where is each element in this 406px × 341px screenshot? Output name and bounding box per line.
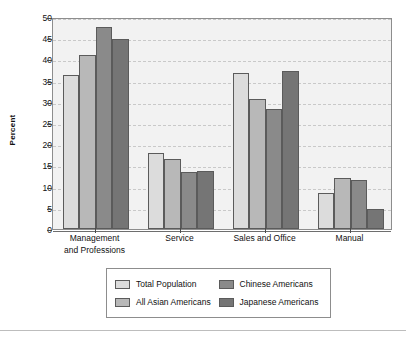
bar bbox=[79, 55, 96, 229]
y-tick-label: 15 bbox=[6, 162, 52, 171]
bar bbox=[164, 159, 181, 229]
legend-swatch-icon bbox=[219, 298, 234, 307]
bar-group bbox=[148, 19, 214, 229]
y-tick-mark bbox=[47, 230, 52, 231]
y-tick-label: 20 bbox=[6, 141, 52, 150]
x-tick-mark bbox=[350, 228, 351, 233]
legend-label: Total Population bbox=[136, 279, 197, 289]
y-tick-label: 40 bbox=[6, 56, 52, 65]
bar bbox=[112, 39, 129, 229]
legend-item-chinese-americans: Chinese Americans bbox=[219, 279, 323, 289]
y-tick-label: 50 bbox=[6, 14, 52, 23]
bar bbox=[96, 27, 113, 229]
gridline bbox=[53, 231, 391, 232]
x-axis-tick-labels: Managementand ProfessionsServiceSales an… bbox=[52, 233, 392, 273]
bar-group bbox=[63, 19, 129, 229]
bar bbox=[351, 180, 368, 229]
bar bbox=[266, 109, 283, 229]
legend-label: All Asian Americans bbox=[136, 297, 211, 307]
bar bbox=[148, 153, 165, 229]
bar-group bbox=[233, 19, 299, 229]
y-tick-label: 5 bbox=[6, 205, 52, 214]
bar bbox=[334, 178, 351, 229]
footer-divider bbox=[0, 330, 406, 331]
x-tick-mark bbox=[180, 228, 181, 233]
legend-swatch-icon bbox=[219, 280, 234, 289]
x-tick-mark bbox=[265, 228, 266, 233]
y-tick-label: 30 bbox=[6, 99, 52, 108]
chart-legend: Total Population Chinese Americans All A… bbox=[106, 268, 331, 318]
x-tick-mark bbox=[95, 228, 96, 233]
y-axis-tick-labels: 05101520253035404550 bbox=[0, 18, 52, 230]
legend-label: Chinese Americans bbox=[240, 279, 313, 289]
bars-layer bbox=[53, 19, 391, 229]
y-tick-label: 10 bbox=[6, 184, 52, 193]
legend-swatch-icon bbox=[115, 280, 130, 289]
bar bbox=[282, 71, 299, 229]
bar bbox=[318, 193, 335, 229]
bar bbox=[63, 75, 80, 229]
y-tick-label: 45 bbox=[6, 35, 52, 44]
legend-row: All Asian Americans Japanese Americans bbox=[115, 293, 322, 311]
y-tick-label: 25 bbox=[6, 120, 52, 129]
bar bbox=[181, 172, 198, 229]
legend-swatch-icon bbox=[115, 298, 130, 307]
bar bbox=[197, 171, 214, 230]
y-tick-label: 35 bbox=[6, 78, 52, 87]
plot-area bbox=[52, 18, 392, 230]
legend-label: Japanese Americans bbox=[240, 297, 319, 307]
bar-group bbox=[318, 19, 384, 229]
bar-chart-figure: Percent 05101520253035404550 Managementa… bbox=[0, 0, 406, 341]
bar bbox=[233, 73, 250, 229]
legend-item-total-population: Total Population bbox=[115, 279, 219, 289]
x-tick-label: Manual bbox=[295, 233, 405, 245]
legend-item-japanese-americans: Japanese Americans bbox=[219, 297, 323, 307]
bar bbox=[367, 209, 384, 229]
legend-item-all-asian-americans: All Asian Americans bbox=[115, 297, 219, 307]
bar bbox=[249, 99, 266, 229]
legend-row: Total Population Chinese Americans bbox=[115, 275, 322, 293]
